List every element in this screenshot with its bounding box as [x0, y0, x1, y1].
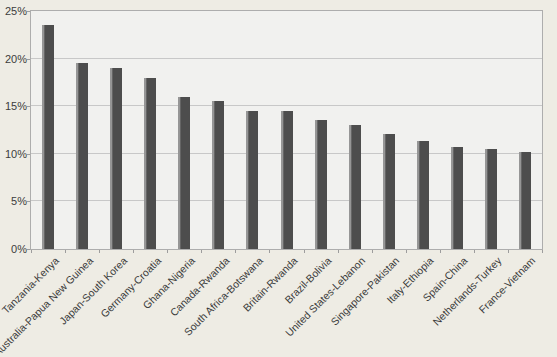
x-axis-tick: [508, 250, 509, 253]
y-tick-label: 10%: [0, 148, 27, 160]
x-category-label: Germany-Croatia: [98, 255, 163, 320]
x-axis-tick: [542, 250, 543, 253]
bar: [519, 152, 531, 249]
x-axis-tick: [474, 250, 475, 253]
y-tick-label: 5%: [0, 195, 27, 207]
bar: [42, 25, 54, 249]
x-category-label: Tanzania-Kenya: [0, 255, 61, 316]
y-tick-label: 15%: [0, 100, 27, 112]
y-tick-label: 25%: [0, 5, 27, 17]
gridline: [31, 58, 542, 59]
x-axis-tick: [269, 250, 270, 253]
x-axis-tick: [133, 250, 134, 253]
x-axis-tick: [406, 250, 407, 253]
bar: [417, 141, 429, 249]
y-axis-tick: [27, 106, 30, 107]
bar: [178, 97, 190, 249]
bar: [383, 134, 395, 249]
x-axis-tick: [440, 250, 441, 253]
bar: [144, 78, 156, 249]
y-tick-label: 0%: [0, 243, 27, 255]
x-axis-tick: [167, 250, 168, 253]
x-axis-tick: [65, 250, 66, 253]
bar: [212, 101, 224, 249]
x-axis-tick: [235, 250, 236, 253]
x-axis-tick: [338, 250, 339, 253]
y-axis-tick: [27, 154, 30, 155]
x-axis-tick: [99, 250, 100, 253]
bar: [349, 125, 361, 249]
x-axis-tick: [201, 250, 202, 253]
x-axis-tick: [304, 250, 305, 253]
plot-area: [30, 10, 543, 250]
y-axis-tick: [27, 249, 30, 250]
bar: [76, 63, 88, 249]
y-axis-tick: [27, 201, 30, 202]
bar: [110, 68, 122, 249]
y-tick-label: 20%: [0, 53, 27, 65]
gridline: [31, 105, 542, 106]
y-axis-tick: [27, 59, 30, 60]
bar: [485, 149, 497, 249]
x-axis-tick: [31, 250, 32, 253]
y-axis-tick: [27, 11, 30, 12]
bar: [281, 111, 293, 249]
x-axis-tick: [372, 250, 373, 253]
bar: [315, 120, 327, 249]
bar: [451, 147, 463, 249]
bar: [246, 111, 258, 249]
